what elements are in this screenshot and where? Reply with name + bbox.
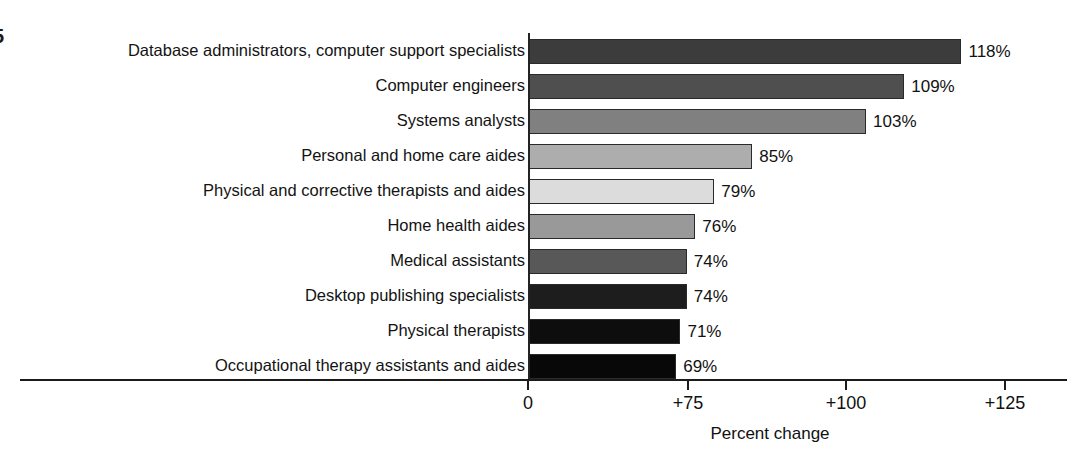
bar-row: Medical assistants74% [0,247,1076,282]
bar [529,179,714,204]
axis-zero-line [528,33,530,379]
bar-row: Systems analysts103% [0,107,1076,142]
bar-value-label: 71% [687,319,721,344]
bar-category-label: Computer engineers [376,75,526,95]
tick-mark [845,381,847,390]
bar [529,249,687,274]
tick-mark [527,381,529,390]
axis-baseline [20,379,1067,381]
bar-value-label: 109% [911,74,954,99]
tick-mark [687,381,689,390]
bar-row: Personal and home care aides85% [0,142,1076,177]
bar [529,39,961,64]
bar-category-label: Personal and home care aides [301,145,525,165]
bar-value-label: 103% [873,109,916,134]
bar-value-label: 118% [968,39,1010,64]
bar [529,144,752,169]
bar [529,319,680,344]
bar-category-label: Occupational therapy assistants and aide… [215,355,525,375]
bar-row: Physical and corrective therapists and a… [0,177,1076,212]
bar [529,74,904,99]
bar [529,354,676,379]
bar-row: Home health aides76% [0,212,1076,247]
bar-category-label: Physical and corrective therapists and a… [203,180,525,200]
bar-value-label: 74% [694,249,728,274]
bar-value-label: 76% [702,214,736,239]
bar-category-label: Medical assistants [390,250,525,270]
bar-rows: Database administrators, computer suppor… [0,37,1076,387]
bar-value-label: 79% [721,179,755,204]
bar-category-label: Physical therapists [387,320,525,340]
bar-row: Occupational therapy assistants and aide… [0,352,1076,387]
bar-category-label: Home health aides [387,215,525,235]
tick-label: +125 [985,392,1026,414]
bar-row: Database administrators, computer suppor… [0,37,1076,72]
bar-chart: 5 . Database administrators, computer su… [0,0,1076,475]
bar-value-label: 74% [694,284,728,309]
bar-category-label: Database administrators, computer suppor… [128,40,525,60]
bar [529,284,687,309]
x-axis-title: Percent change [0,424,1076,444]
tick-mark [1004,381,1006,390]
tick-label: 0 [523,392,533,414]
tick-label: +75 [673,392,704,414]
bar-category-label: Desktop publishing specialists [305,285,525,305]
bar-category-label: Systems analysts [397,110,525,130]
tick-label: +100 [826,392,867,414]
bar-row: Physical therapists71% [0,317,1076,352]
bar-value-label: 69% [683,354,717,379]
bar [529,109,866,134]
bar-row: Desktop publishing specialists74% [0,282,1076,317]
bar-value-label: 85% [759,144,793,169]
bar [529,214,695,239]
bar-row: Computer engineers109% [0,72,1076,107]
